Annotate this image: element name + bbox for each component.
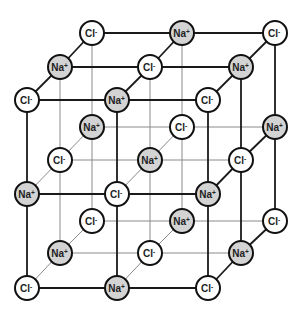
nacl-lattice-diagram: Cl-Na+Cl-Na+Cl-Na+Cl-Na+Cl-Na+Cl-Na+Cl-N…	[0, 0, 304, 317]
chloride-ion: Cl-	[80, 21, 104, 45]
sodium-ion: Na+	[170, 209, 194, 233]
sodium-ion: Na+	[263, 115, 287, 139]
chloride-ion: Cl-	[170, 115, 194, 139]
chloride-ion: Cl-	[15, 276, 39, 300]
sodium-ion: Na+	[229, 241, 253, 265]
sodium-ion: Na+	[138, 148, 162, 172]
chloride-ion: Cl-	[196, 88, 220, 112]
sodium-ion: Na+	[105, 276, 129, 300]
chloride-ion: Cl-	[196, 276, 220, 300]
chloride-ion: Cl-	[263, 209, 287, 233]
chloride-ion: Cl-	[138, 55, 162, 79]
chloride-ion: Cl-	[263, 21, 287, 45]
sodium-ion: Na+	[48, 55, 72, 79]
ions-layer: Cl-Na+Cl-Na+Cl-Na+Cl-Na+Cl-Na+Cl-Na+Cl-N…	[15, 21, 287, 300]
chloride-ion: Cl-	[48, 148, 72, 172]
sodium-ion: Na+	[105, 88, 129, 112]
chloride-ion: Cl-	[138, 241, 162, 265]
sodium-ion: Na+	[80, 115, 104, 139]
chloride-ion: Cl-	[15, 88, 39, 112]
chloride-ion: Cl-	[229, 148, 253, 172]
chloride-ion: Cl-	[105, 182, 129, 206]
sodium-ion: Na+	[170, 21, 194, 45]
sodium-ion: Na+	[229, 55, 253, 79]
sodium-ion: Na+	[15, 182, 39, 206]
sodium-ion: Na+	[196, 182, 220, 206]
sodium-ion: Na+	[48, 241, 72, 265]
chloride-ion: Cl-	[80, 209, 104, 233]
